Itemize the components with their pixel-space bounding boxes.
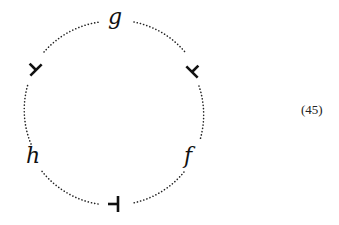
- label-f: f: [184, 145, 192, 167]
- arc-upper-left-to-g: [44, 22, 100, 52]
- label-g: g: [108, 6, 122, 28]
- tack-upper-left-icon: [24, 58, 42, 76]
- arc-f-to-bottom: [133, 172, 184, 203]
- arc-upper-right-to-f: [199, 86, 204, 140]
- tack-upper-right-icon: [186, 60, 204, 78]
- string-diagram: [0, 0, 339, 225]
- tack-bottom-icon: [108, 196, 118, 212]
- equation-number: (45): [301, 103, 323, 116]
- label-h: h: [26, 145, 40, 167]
- arc-h-to-upper-left: [24, 84, 31, 144]
- arc-bottom-to-h: [41, 170, 98, 204]
- arc-g-to-upper-right: [134, 22, 185, 52]
